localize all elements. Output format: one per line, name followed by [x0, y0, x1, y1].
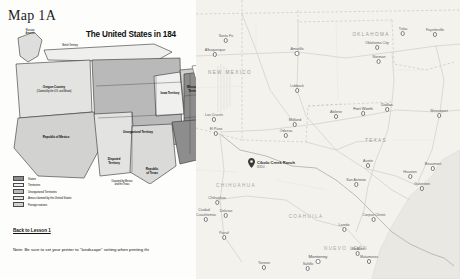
- city-dot: [342, 227, 346, 231]
- map-city-shreveport[interactable]: Shreveport: [430, 109, 448, 118]
- city-dot: [293, 122, 297, 126]
- legend-item: Areas claimed by the United States: [13, 195, 71, 200]
- city-dot: [295, 51, 299, 55]
- city-dot: [224, 38, 228, 42]
- map-city-parral[interactable]: Parral: [219, 231, 229, 240]
- map-city-monterrey[interactable]: Monterrey: [309, 254, 328, 264]
- map-city-lubbock[interactable]: Lubbock: [290, 84, 304, 93]
- city-dot: [334, 114, 338, 118]
- print-note: Note: Be sure to set your printer to "la…: [13, 247, 149, 252]
- city-dot: [284, 133, 288, 137]
- map-label-oregon-country: Oregon Country: [43, 86, 65, 90]
- map-label-oregon-claim: (Claimed by the U.S. and Britain): [37, 91, 72, 94]
- city-dot: [433, 32, 437, 36]
- city-dot: [431, 166, 435, 170]
- map-label-republic-of-mexico: Republic of Mexico: [43, 136, 69, 140]
- legend-item: States: [13, 176, 71, 181]
- map-label-british-territory: British Territory: [62, 45, 78, 48]
- city-dot: [377, 59, 381, 63]
- city-dot: [367, 259, 371, 263]
- legend-label-states: States: [28, 177, 36, 181]
- map-legend: States Territories Unorganized Territori…: [13, 176, 71, 208]
- legend-swatch-claimed: [13, 196, 24, 201]
- map-city-chihuahua[interactable]: Chihuahua: [208, 196, 225, 205]
- city-dot: [437, 113, 441, 117]
- map-city-oklahoma-city[interactable]: Oklahoma City: [365, 41, 389, 50]
- city-dot: [214, 131, 218, 135]
- map-tiles: [196, 0, 460, 279]
- legend-label-territories: Territories: [28, 183, 40, 187]
- map-city-santa-fe[interactable]: Santa Fe: [219, 34, 234, 43]
- legend-label-claimed: Areas claimed by the United States: [28, 196, 71, 200]
- legend-item: Foreign nations: [13, 202, 71, 207]
- map-city-midland[interactable]: Midland: [289, 118, 302, 127]
- map-label-disputed-by-mexico: Disputed by Mexicoand the Texas: [112, 181, 133, 187]
- map-city-beaumont[interactable]: Beaumont: [425, 162, 441, 171]
- map-state-texas: TEXAS: [365, 138, 387, 143]
- map-label-russian-america: RussianAmerica: [26, 30, 35, 36]
- city-dot: [401, 31, 405, 35]
- city-dot: [306, 266, 310, 270]
- map-city-torreon[interactable]: Torreon: [258, 261, 270, 270]
- legend-swatch-unorganized: [13, 189, 24, 194]
- city-dot: [361, 111, 365, 115]
- map-label-unorganized-territory: Unorganized Territory: [123, 131, 153, 135]
- map-state-new-mexico: NEW MEXICO: [208, 70, 252, 75]
- city-dot: [354, 182, 358, 186]
- city-dot: [295, 88, 299, 92]
- map-state-coahuila: COAHUILA: [289, 214, 324, 219]
- map-city-houston[interactable]: Houston: [403, 170, 416, 179]
- map-city-cuauhtemoc[interactable]: Cuauhtemoc: [196, 213, 216, 222]
- map-city-delicias[interactable]: Delicias: [220, 209, 233, 218]
- legend-item: Territories: [13, 182, 71, 187]
- city-dot: [366, 163, 370, 167]
- city-dot: [420, 186, 424, 190]
- map-state-oklahoma: OKLAHOMA: [352, 32, 389, 37]
- city-dot: [204, 217, 208, 221]
- legend-item: Unorganized Territories: [13, 189, 71, 194]
- city-dot: [212, 117, 216, 121]
- legend-swatch-foreign: [13, 202, 24, 207]
- google-map-panel[interactable]: NEW MEXICO OKLAHOMA TEXAS CHIHUAHUA COAH…: [196, 0, 460, 279]
- map-city-laredo[interactable]: Laredo: [338, 223, 349, 232]
- city-dot: [408, 174, 412, 178]
- city-dot: [316, 259, 320, 263]
- map-city-abilene[interactable]: Abilene: [330, 110, 342, 119]
- map-city-ciudad[interactable]: Ciudad: [198, 208, 209, 212]
- map-city-austin[interactable]: Austin: [363, 159, 373, 168]
- map-city-fort-worth[interactable]: Fort Worth: [353, 106, 373, 116]
- city-dot: [224, 213, 228, 217]
- map-label-disputed-territory: DisputedTerritory: [108, 158, 120, 165]
- map-city-albuquerque[interactable]: Albuquerque: [205, 48, 225, 57]
- city-dot: [222, 235, 226, 239]
- map-city-las-cruces[interactable]: Las Cruces: [205, 113, 223, 122]
- map-city-el-paso[interactable]: El Paso: [210, 127, 222, 136]
- map-state-chihuahua: CHIHUAHUA: [216, 183, 256, 188]
- marker-sublabel: $350: [257, 165, 265, 169]
- map-city-san-antonio[interactable]: San Antonio: [346, 178, 365, 187]
- map-city-odessa[interactable]: Odessa: [280, 129, 292, 138]
- city-dot: [215, 200, 219, 204]
- legend-label-foreign: Foreign nations: [28, 203, 47, 207]
- map-city-tulsa[interactable]: Tulsa: [399, 27, 408, 36]
- location-pin-icon[interactable]: [248, 158, 255, 168]
- legend-swatch-territories: [13, 183, 24, 188]
- city-dot: [262, 265, 266, 269]
- city-dot: [385, 107, 389, 111]
- city-dot: [375, 45, 379, 49]
- city-dot: [372, 217, 376, 221]
- city-dot: [213, 52, 217, 56]
- legend-swatch-states: [13, 176, 24, 181]
- map-city-fayetteville[interactable]: Fayetteville: [426, 28, 444, 37]
- legend-label-unorganized: Unorganized Territories: [28, 190, 57, 194]
- historic-map: RussianAmerica British Territory Oregon …: [4, 26, 228, 184]
- map-label-iowa-territory: Iowa Territory: [161, 92, 180, 96]
- map-city-norman[interactable]: Norman: [373, 55, 386, 64]
- map-city-dallas[interactable]: Dallas: [381, 102, 393, 112]
- map-city-galveston[interactable]: Galveston: [414, 182, 430, 191]
- map-city-corpus-christi[interactable]: Corpus Christi: [363, 213, 386, 222]
- map-city-amarillo[interactable]: Amarillo: [291, 47, 304, 56]
- map-label-republic-of-texas: Republicof Texas: [146, 168, 158, 175]
- map-city-matamoros[interactable]: Matamoros: [360, 255, 378, 264]
- back-to-lesson-link[interactable]: Back to Lesson 1: [13, 228, 51, 233]
